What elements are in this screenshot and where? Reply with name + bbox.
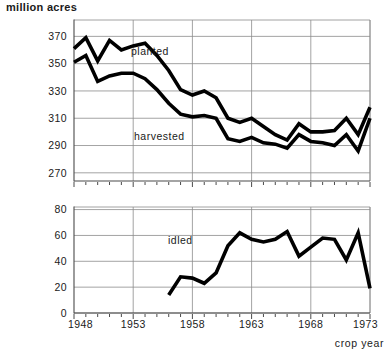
y-tick-label: 40 (55, 255, 67, 267)
x-axis: 194819531958196319681973 (68, 318, 378, 330)
y-tick-label: 310 (48, 112, 67, 124)
y-tick-label: 330 (48, 85, 67, 97)
y-tick-label: 60 (55, 229, 67, 241)
x-tick-label: 1963 (239, 318, 264, 330)
series-line-idled (169, 232, 370, 295)
series-line-harvested (74, 55, 370, 151)
x-tick-label: 1958 (180, 318, 205, 330)
acreage-and-idled-chart: 270290310330350370plantedharvested 02040… (0, 0, 388, 354)
series-label-harvested: harvested (134, 130, 185, 142)
series-line-planted (74, 38, 370, 140)
x-tick-label: 1948 (68, 318, 93, 330)
y-tick-label: 0 (61, 307, 67, 319)
chart-page: million acres 270290310330350370plantedh… (0, 0, 388, 354)
y-tick-label: 350 (48, 57, 67, 69)
x-tick-label: 1968 (298, 318, 323, 330)
acreage-panel: 270290310330350370plantedharvested (48, 20, 370, 188)
series-label-planted: planted (131, 45, 169, 57)
y-tick-label: 80 (55, 203, 67, 215)
y-tick-label: 290 (48, 139, 67, 151)
y-tick-label: 270 (48, 167, 67, 179)
idled-panel: 020406080idled (55, 203, 370, 319)
x-tick-label: 1973 (353, 318, 378, 330)
x-tick-label: 1953 (121, 318, 146, 330)
y-tick-label: 20 (55, 281, 67, 293)
series-label-idled: idled (168, 234, 193, 246)
y-tick-label: 370 (48, 30, 67, 42)
x-axis-title: crop year (335, 337, 384, 349)
